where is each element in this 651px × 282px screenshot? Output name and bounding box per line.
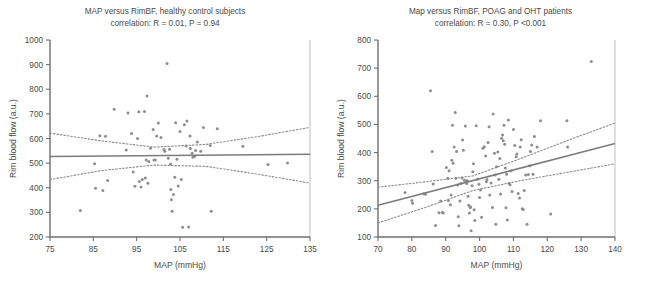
data-point bbox=[125, 149, 128, 152]
data-point bbox=[507, 118, 510, 121]
data-point bbox=[434, 224, 437, 227]
data-point bbox=[179, 130, 182, 133]
data-point bbox=[147, 160, 150, 163]
data-point bbox=[536, 145, 539, 148]
x-tick-label: 135 bbox=[303, 245, 317, 254]
data-point bbox=[101, 189, 104, 192]
y-axis-label: Rim blood flow (a.u.) bbox=[336, 99, 346, 178]
data-point bbox=[170, 198, 173, 201]
data-point bbox=[515, 152, 518, 155]
data-point bbox=[189, 147, 192, 150]
data-point bbox=[470, 229, 473, 232]
data-point bbox=[473, 219, 476, 222]
data-point bbox=[488, 194, 491, 197]
data-point bbox=[431, 150, 434, 153]
data-point bbox=[209, 144, 212, 147]
data-point bbox=[175, 158, 178, 161]
panel-left-plot: 2003004005006007008009001000758595105115… bbox=[0, 0, 330, 282]
data-point bbox=[140, 186, 143, 189]
data-point bbox=[458, 199, 461, 202]
data-point bbox=[498, 157, 501, 160]
data-point bbox=[522, 208, 525, 211]
x-tick-label: 95 bbox=[132, 245, 142, 254]
data-point bbox=[159, 136, 162, 139]
data-point bbox=[172, 193, 175, 196]
data-point bbox=[477, 183, 480, 186]
data-point bbox=[527, 173, 530, 176]
data-point bbox=[449, 203, 452, 206]
panel-right-plot: 1002003004005006007008007080901001101201… bbox=[330, 0, 651, 282]
data-point bbox=[171, 210, 174, 213]
data-point bbox=[194, 149, 197, 152]
data-point bbox=[127, 111, 130, 114]
data-point bbox=[146, 94, 149, 97]
y-tick-label: 300 bbox=[29, 208, 43, 217]
data-point bbox=[484, 154, 487, 157]
regression-line bbox=[378, 144, 615, 206]
data-point bbox=[166, 62, 169, 65]
data-point bbox=[513, 144, 516, 147]
x-tick-label: 120 bbox=[540, 245, 554, 254]
data-point bbox=[525, 223, 528, 226]
data-point bbox=[216, 127, 219, 130]
y-tick-label: 500 bbox=[357, 120, 371, 129]
data-point bbox=[286, 161, 289, 164]
data-point bbox=[79, 209, 82, 212]
data-point bbox=[518, 196, 521, 199]
x-axis-label: MAP (mmHg) bbox=[154, 260, 206, 270]
data-point bbox=[241, 145, 244, 148]
data-point bbox=[177, 185, 180, 188]
data-point bbox=[519, 145, 522, 148]
y-tick-label: 200 bbox=[357, 205, 371, 214]
data-point bbox=[490, 181, 493, 184]
data-point bbox=[529, 150, 532, 153]
data-point bbox=[506, 219, 509, 222]
data-point bbox=[167, 157, 170, 160]
y-tick-label: 100 bbox=[357, 233, 371, 242]
data-point bbox=[191, 152, 194, 155]
y-tick-label: 400 bbox=[357, 149, 371, 158]
data-point bbox=[517, 192, 520, 195]
y-tick-label: 500 bbox=[29, 159, 43, 168]
figure-container: MAP versus RimBF, healthy control subjec… bbox=[0, 0, 651, 282]
data-point bbox=[469, 205, 472, 208]
data-point bbox=[549, 212, 552, 215]
data-point bbox=[496, 151, 499, 154]
data-point bbox=[202, 126, 205, 129]
data-point bbox=[471, 184, 474, 187]
data-point bbox=[523, 189, 526, 192]
data-point bbox=[455, 150, 458, 153]
data-point bbox=[454, 111, 457, 114]
x-tick-label: 75 bbox=[45, 245, 55, 254]
data-point bbox=[453, 145, 456, 148]
confidence-band-lower bbox=[378, 164, 615, 223]
data-point bbox=[511, 190, 514, 193]
data-point bbox=[181, 226, 184, 229]
data-point bbox=[98, 134, 101, 137]
data-point bbox=[155, 135, 158, 138]
data-point bbox=[504, 167, 507, 170]
data-point bbox=[505, 173, 508, 176]
x-tick-label: 85 bbox=[89, 245, 99, 254]
x-tick-label: 130 bbox=[574, 245, 588, 254]
data-point bbox=[452, 162, 455, 165]
data-point bbox=[136, 137, 139, 140]
y-axis-label: Rim blood flow (a.u.) bbox=[8, 99, 18, 178]
data-point bbox=[471, 170, 474, 173]
data-point bbox=[196, 140, 199, 143]
data-point bbox=[497, 178, 500, 181]
x-tick-label: 125 bbox=[260, 245, 274, 254]
x-tick-label: 100 bbox=[473, 245, 487, 254]
data-point bbox=[130, 132, 133, 135]
data-point bbox=[432, 183, 435, 186]
y-tick-label: 600 bbox=[29, 135, 43, 144]
data-point bbox=[483, 145, 486, 148]
data-point bbox=[143, 110, 146, 113]
data-point bbox=[491, 206, 494, 209]
y-tick-label: 1000 bbox=[25, 36, 44, 45]
data-point bbox=[411, 202, 414, 205]
confidence-band-lower bbox=[50, 165, 310, 183]
data-point bbox=[210, 210, 213, 213]
y-tick-label: 300 bbox=[357, 177, 371, 186]
data-point bbox=[133, 185, 136, 188]
